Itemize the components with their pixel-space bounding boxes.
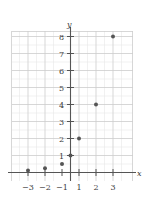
data-point — [77, 137, 81, 141]
data-point — [43, 166, 47, 170]
x-tick-label-1: 1 — [76, 183, 81, 192]
x-tick-label--2: −2 — [39, 183, 51, 192]
data-point — [26, 168, 30, 172]
y-tick-label-8: 8 — [59, 33, 64, 42]
x-tick-label-3: 3 — [110, 183, 115, 192]
y-axis-label: y — [66, 20, 72, 29]
scatter-plot-figure: −3 −2 −1 1 2 3 1 2 3 4 5 6 7 8 x y — [0, 0, 147, 210]
x-tick-label--3: −3 — [22, 183, 34, 192]
data-point — [111, 35, 115, 39]
y-tick-label-5: 5 — [59, 84, 64, 93]
data-point — [94, 103, 98, 107]
y-tick-label-6: 6 — [59, 67, 64, 76]
y-tick-label-1: 1 — [59, 152, 64, 161]
y-tick-label-3: 3 — [59, 118, 64, 127]
data-point — [60, 162, 64, 166]
y-tick-label-7: 7 — [59, 50, 64, 59]
y-tick-label-2: 2 — [59, 135, 64, 144]
plot-canvas: −3 −2 −1 1 2 3 1 2 3 4 5 6 7 8 x y — [0, 0, 147, 210]
y-tick-label-4: 4 — [59, 101, 64, 110]
x-axis-label: x — [137, 169, 142, 178]
x-tick-label-2: 2 — [93, 183, 98, 192]
data-point — [69, 154, 73, 158]
x-tick-label--1: −1 — [56, 183, 68, 192]
